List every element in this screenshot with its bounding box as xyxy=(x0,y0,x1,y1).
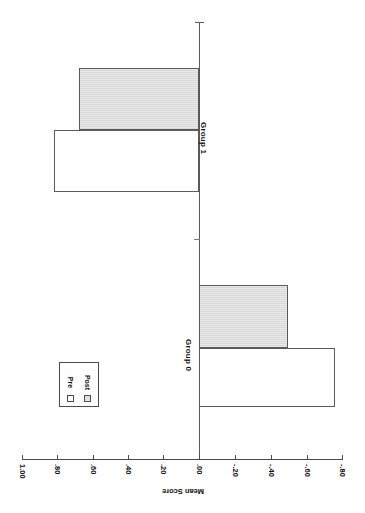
axis-tick xyxy=(93,455,94,460)
group0-pre-bar xyxy=(199,348,335,407)
group1-post-bar xyxy=(79,68,199,130)
axis-tick-label: .40 xyxy=(124,464,133,474)
group0-post-bar xyxy=(199,285,288,348)
axis-tick-label: -.80 xyxy=(338,464,347,477)
axis-tick xyxy=(235,455,236,460)
axis-tick-label: .20 xyxy=(159,464,168,474)
legend: Pre Post xyxy=(59,362,99,407)
axis-tick xyxy=(22,455,23,460)
legend-swatch-post xyxy=(84,395,91,402)
legend-item-pre: Pre xyxy=(66,371,75,402)
axis-tick xyxy=(271,455,272,460)
axis-title: Mean Score xyxy=(148,487,218,496)
axis-tick xyxy=(307,455,308,460)
legend-swatch-pre xyxy=(67,395,74,402)
legend-label-pre: Pre xyxy=(67,376,74,387)
category-label-group0: Group 0 xyxy=(184,339,193,371)
category-label-group1: Group 1 xyxy=(199,122,208,154)
baseline-top-cap xyxy=(195,22,204,23)
axis-tick-label: .60 xyxy=(89,464,98,474)
legend-label-post: Post xyxy=(84,374,91,389)
axis-tick-label: -.40 xyxy=(267,464,276,477)
axis-tick xyxy=(342,455,343,460)
axis-tick-label: .80 xyxy=(53,464,62,474)
group1-pre-bar xyxy=(54,130,199,192)
axis-tick-label: -.20 xyxy=(231,464,240,477)
legend-item-post: Post xyxy=(83,371,92,402)
axis-tick-label: 1.00 xyxy=(18,464,27,479)
bar-chart: Group 1 Group 0 1.00 .80 .60 .40 .20 .00… xyxy=(0,0,365,513)
axis-tick xyxy=(128,455,129,460)
axis-tick xyxy=(199,455,200,460)
category-axis-tick xyxy=(194,239,200,240)
axis-tick-label: -.60 xyxy=(303,464,312,477)
value-axis-line xyxy=(22,459,343,460)
axis-tick xyxy=(163,455,164,460)
axis-tick-label: .00 xyxy=(195,464,204,474)
axis-tick xyxy=(57,455,58,460)
